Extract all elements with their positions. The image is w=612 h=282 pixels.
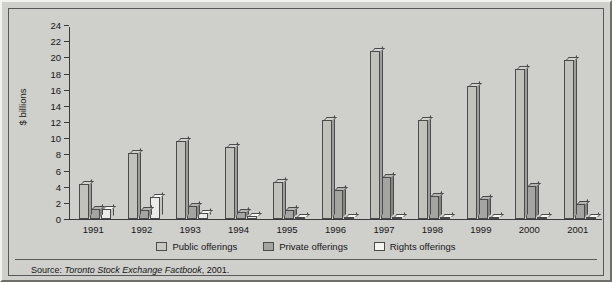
y-tick-label-18: 18 bbox=[35, 74, 61, 75]
y-tick-label-0: 0 bbox=[35, 219, 61, 220]
y-tick-label-22: 22 bbox=[35, 41, 61, 42]
y-tick-16 bbox=[64, 90, 69, 91]
y-tick-label-6: 6 bbox=[35, 171, 61, 172]
bar-front-face bbox=[273, 182, 283, 219]
y-axis-title: $ billions bbox=[17, 89, 28, 126]
bar-front-face bbox=[247, 216, 257, 219]
source-note: Source: Toronto Stock Exchange Factbook,… bbox=[31, 265, 229, 275]
y-tick-0 bbox=[64, 219, 69, 220]
bar-front-face bbox=[586, 217, 596, 219]
bar-group-1992 bbox=[128, 25, 160, 219]
bar-front-face bbox=[515, 69, 525, 219]
figure-panel: $ billions 024681012141618202224 1991199… bbox=[0, 0, 612, 282]
bar-side-face bbox=[380, 46, 383, 217]
y-tick-24 bbox=[64, 25, 69, 26]
source-divider bbox=[15, 259, 597, 260]
x-axis-label-1993: 1993 bbox=[166, 224, 214, 235]
bar-side-face bbox=[574, 55, 577, 217]
bar-group-2001 bbox=[564, 25, 596, 219]
y-tick-10 bbox=[64, 138, 69, 139]
legend-swatch-rights-icon bbox=[374, 242, 385, 251]
bar-side-face bbox=[89, 179, 92, 217]
bar-group-1991 bbox=[79, 25, 111, 219]
y-tick-label-16: 16 bbox=[35, 90, 61, 91]
x-axis-label-1995: 1995 bbox=[263, 224, 311, 235]
bar-1996-public-offerings bbox=[322, 120, 332, 219]
bar-1999-public-offerings bbox=[467, 86, 477, 219]
x-axis-label-1999: 1999 bbox=[457, 224, 505, 235]
bar-1994-public-offerings bbox=[225, 147, 235, 219]
legend-swatch-public-icon bbox=[156, 242, 167, 251]
bar-front-face bbox=[295, 217, 305, 219]
x-axis-label-1996: 1996 bbox=[311, 224, 359, 235]
bar-1994-rights-offerings bbox=[247, 216, 257, 219]
bar-group-2000 bbox=[515, 25, 547, 219]
bar-group-1998 bbox=[418, 25, 450, 219]
y-tick-2 bbox=[64, 203, 69, 204]
bar-front-face bbox=[225, 147, 235, 219]
bar-2001-public-offerings bbox=[564, 60, 574, 219]
x-axis-label-1994: 1994 bbox=[214, 224, 262, 235]
bar-side-face bbox=[536, 181, 539, 217]
bar-1997-public-offerings bbox=[370, 51, 380, 219]
bar-front-face bbox=[467, 86, 477, 219]
legend-swatch-private-icon bbox=[263, 242, 274, 251]
bar-side-face bbox=[235, 142, 238, 217]
bar-group-1995 bbox=[273, 25, 305, 219]
source-suffix: , 2001. bbox=[202, 265, 230, 275]
x-axis-label-1991: 1991 bbox=[69, 224, 117, 235]
bar-group-1993 bbox=[176, 25, 208, 219]
bar-1993-public-offerings bbox=[176, 141, 186, 219]
y-tick-label-14: 14 bbox=[35, 106, 61, 107]
y-tick-8 bbox=[64, 154, 69, 155]
y-tick-label-20: 20 bbox=[35, 57, 61, 58]
bar-1999-rights-offerings bbox=[489, 217, 499, 219]
legend-label: Public offerings bbox=[172, 241, 237, 252]
bar-front-face bbox=[564, 60, 574, 219]
y-tick-label-12: 12 bbox=[35, 122, 61, 123]
bar-front-face bbox=[392, 217, 402, 219]
bar-1997-rights-offerings bbox=[392, 217, 402, 219]
legend-item-public-offerings[interactable]: Public offerings bbox=[156, 241, 237, 252]
bar-1998-public-offerings bbox=[418, 120, 428, 219]
bar-2000-public-offerings bbox=[515, 69, 525, 219]
legend-item-rights-offerings[interactable]: Rights offerings bbox=[374, 241, 456, 252]
x-axis-label-2001: 2001 bbox=[554, 224, 602, 235]
bar-group-1994 bbox=[225, 25, 257, 219]
bar-front-face bbox=[489, 217, 499, 219]
bar-front-face bbox=[128, 153, 138, 219]
bar-1995-rights-offerings bbox=[295, 217, 305, 219]
y-tick-14 bbox=[64, 106, 69, 107]
y-tick-label-10: 10 bbox=[35, 138, 61, 139]
y-tick-6 bbox=[64, 171, 69, 172]
x-axis-label-1997: 1997 bbox=[360, 224, 408, 235]
y-tick-label-2: 2 bbox=[35, 203, 61, 204]
bar-side-face bbox=[283, 177, 286, 217]
bar-1991-public-offerings bbox=[79, 184, 89, 219]
x-axis-label-1992: 1992 bbox=[117, 224, 165, 235]
legend-label: Rights offerings bbox=[390, 241, 456, 252]
bar-1998-rights-offerings bbox=[440, 217, 450, 219]
bar-front-face bbox=[370, 51, 380, 219]
y-tick-label-8: 8 bbox=[35, 154, 61, 155]
bar-front-face bbox=[418, 120, 428, 219]
legend-item-private-offerings[interactable]: Private offerings bbox=[263, 241, 347, 252]
y-axis-line bbox=[69, 27, 70, 220]
bar-side-face bbox=[477, 81, 480, 217]
bar-1992-public-offerings bbox=[128, 153, 138, 219]
bar-1996-rights-offerings bbox=[344, 217, 354, 219]
bar-side-face bbox=[525, 64, 528, 217]
bar-side-face bbox=[138, 148, 141, 217]
x-axis-label-2000: 2000 bbox=[505, 224, 553, 235]
bar-side-face bbox=[428, 115, 431, 217]
legend-label: Private offerings bbox=[279, 241, 347, 252]
bar-front-face bbox=[322, 120, 332, 219]
bar-front-face bbox=[176, 141, 186, 219]
y-tick-20 bbox=[64, 57, 69, 58]
bar-front-face bbox=[537, 217, 547, 219]
y-tick-12 bbox=[64, 122, 69, 123]
y-tick-4 bbox=[64, 187, 69, 188]
bar-side-face bbox=[186, 136, 189, 217]
y-tick-22 bbox=[64, 41, 69, 42]
x-axis-line bbox=[69, 219, 602, 220]
